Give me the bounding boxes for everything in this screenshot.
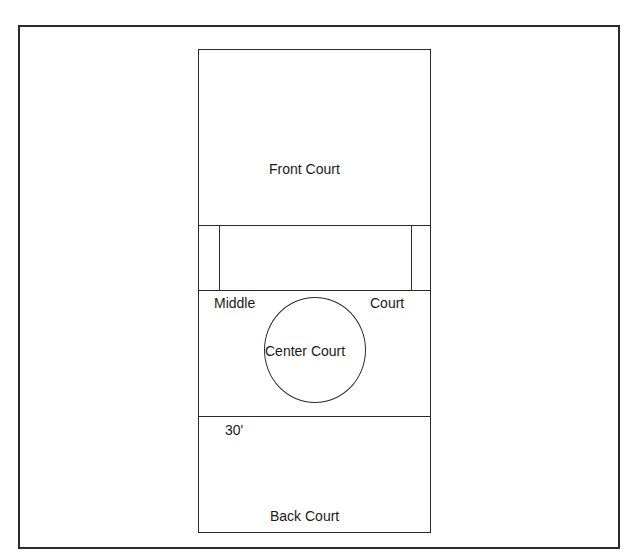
middle-label: Middle bbox=[214, 295, 255, 311]
left-side-line bbox=[219, 225, 220, 290]
court-label: Court bbox=[370, 295, 404, 311]
middle-court-line bbox=[198, 290, 431, 291]
court-boundary bbox=[198, 49, 431, 533]
dimension-label: 30' bbox=[225, 422, 243, 438]
center-court-label: Center Court bbox=[265, 343, 345, 359]
front-court-label: Front Court bbox=[269, 161, 340, 177]
front-court-line bbox=[198, 225, 431, 226]
back-court-label: Back Court bbox=[270, 508, 339, 524]
right-side-line bbox=[411, 225, 412, 290]
back-court-line bbox=[198, 416, 431, 417]
